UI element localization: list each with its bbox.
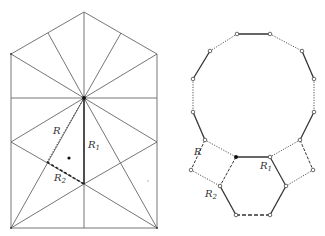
label-R1-left: R1 <box>87 139 100 152</box>
right-square <box>270 140 313 186</box>
left-labels: R R1 R2 <box>52 125 100 185</box>
label-R2-right: R2 <box>204 188 218 201</box>
label-R1-right: R1 <box>259 160 272 173</box>
stray-dot <box>147 180 149 182</box>
label-R-left: R <box>52 125 61 136</box>
right-labels: R R1 R2 <box>193 146 272 201</box>
corner-dot-bl <box>10 227 12 229</box>
corner-dot-tl <box>10 53 12 55</box>
label-R-right: R <box>193 146 202 157</box>
hexagon <box>220 157 286 215</box>
corner-dot-br <box>156 227 158 229</box>
inner-point <box>67 156 70 159</box>
filled-vertex <box>234 155 238 159</box>
figure: R R1 R2 <box>0 0 325 236</box>
center-point <box>82 96 86 100</box>
